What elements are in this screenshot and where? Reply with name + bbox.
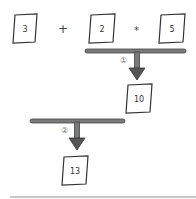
merge-arrow-icon xyxy=(29,118,127,152)
result-card-10: 10 xyxy=(124,83,154,114)
operand-value: 3 xyxy=(11,24,39,33)
result-value: 13 xyxy=(60,166,90,175)
result-card-13: 13 xyxy=(60,155,90,186)
merge-arrow-icon xyxy=(84,48,188,82)
divider xyxy=(10,196,196,198)
operand-card-2: 2 xyxy=(87,13,117,44)
step-2-label: ② xyxy=(61,127,68,135)
step-1-label: ① xyxy=(120,57,127,65)
result-value: 10 xyxy=(124,94,154,103)
operand-value: 5 xyxy=(157,24,187,33)
plus-operator: + xyxy=(58,23,68,35)
operand-card-5: 5 xyxy=(157,13,187,44)
multiply-operator: * xyxy=(134,26,139,36)
operand-card-3: 3 xyxy=(11,13,39,44)
operand-value: 2 xyxy=(87,24,117,33)
